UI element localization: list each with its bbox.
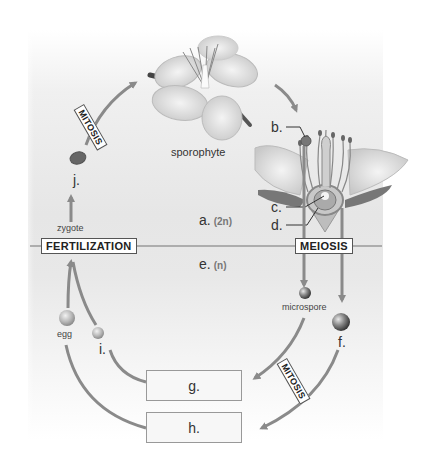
egg-label: egg (57, 329, 72, 339)
region-e-letter: e. (199, 256, 211, 272)
zygote-label: zygote (57, 223, 84, 233)
egg-cell (59, 310, 75, 326)
answer-box-h[interactable]: h. (146, 412, 242, 443)
label-i: i. (99, 341, 106, 357)
label-j: j. (73, 172, 80, 188)
fertilization-label: FERTILIZATION (41, 238, 137, 254)
answer-box-h-label: h. (188, 420, 200, 436)
answer-box-g[interactable]: g. (146, 370, 242, 401)
region-a-ploidy: (2n) (214, 216, 232, 227)
sporophyte-flower (149, 36, 261, 140)
microspore-label: microspore (282, 302, 327, 312)
sperm-cell (92, 327, 104, 339)
label-b: b. (271, 119, 283, 135)
region-a-diploid: a.(2n) (199, 212, 232, 228)
answer-box-g-label: g. (188, 378, 200, 394)
embryo-seed (69, 150, 88, 166)
region-a-letter: a. (199, 212, 211, 228)
microspore-cell (299, 287, 311, 299)
megaspore-cell (332, 313, 350, 331)
region-e-ploidy: (n) (214, 260, 227, 271)
label-d: d. (271, 217, 283, 233)
sporophyte-label: sporophyte (171, 146, 225, 158)
region-e-haploid: e.(n) (199, 256, 226, 272)
meiosis-label: MEIOSIS (295, 238, 353, 254)
label-c: c. (271, 199, 282, 215)
label-f: f. (338, 334, 346, 350)
